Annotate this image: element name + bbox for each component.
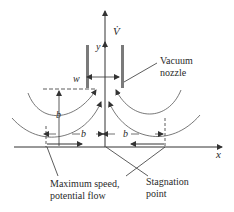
flow-rate-label: V̇ — [113, 25, 121, 37]
right-span-label: b — [123, 128, 128, 139]
nozzle-label-line2: nozzle — [160, 67, 187, 78]
x-axis-label: x — [215, 148, 221, 160]
vacuum-nozzle-diagram: x y V̇ w Vacuum nozzle b b b Maximum spe… — [0, 0, 234, 212]
y-axis-label: y — [95, 41, 101, 52]
max-speed-label-line2: potential flow — [50, 190, 107, 201]
nozzle-label-line1: Vacuum — [160, 55, 193, 66]
nozzle-wall-left — [86, 45, 89, 88]
left-span-label: b — [81, 128, 86, 139]
stagnation-leader-from-right — [126, 147, 165, 176]
nozzle-wall-right — [121, 45, 124, 88]
stagnation-label-line1: Stagnation — [146, 176, 189, 187]
height-label: b — [56, 109, 61, 120]
stagnation-label-line2: point — [146, 188, 167, 199]
stagnation-leader-from-origin — [106, 147, 148, 176]
width-label: w — [73, 73, 80, 84]
streamline-left-inner — [28, 90, 96, 116]
streamline-right-inner — [116, 90, 181, 114]
nozzle-leader-line — [124, 63, 157, 82]
max-speed-label-line1: Maximum speed, — [50, 178, 119, 189]
max-speed-leader — [47, 147, 58, 176]
